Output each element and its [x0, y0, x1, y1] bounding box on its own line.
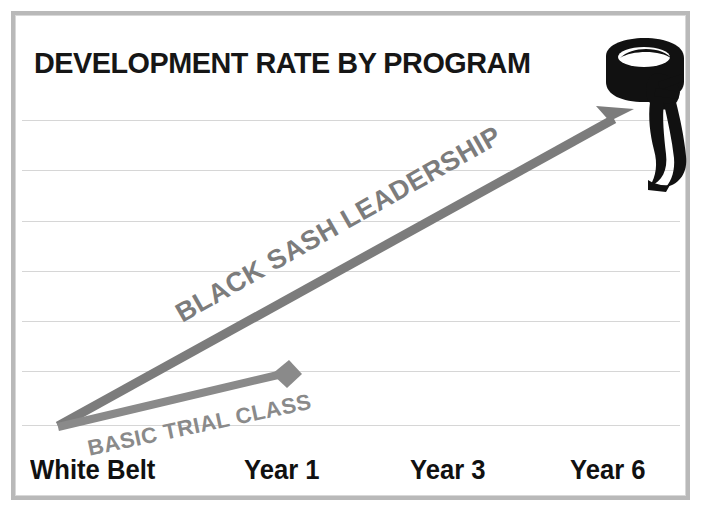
- axis-label-white-belt: White Belt: [30, 455, 155, 486]
- chart-infographic: DEVELOPMENT RATE BY PROGRAM BLACK SASH L…: [0, 0, 707, 517]
- series-arrow-black-sash-leadership: [58, 106, 634, 426]
- axis-label-year-6: Year 6: [570, 455, 646, 486]
- x-axis: White Belt Year 1 Year 3 Year 6: [22, 455, 680, 497]
- axis-label-year-3: Year 3: [410, 455, 486, 486]
- black-belt-icon: [596, 34, 696, 192]
- plot-area: DEVELOPMENT RATE BY PROGRAM BLACK SASH L…: [0, 0, 707, 517]
- axis-label-year-1: Year 1: [244, 455, 320, 486]
